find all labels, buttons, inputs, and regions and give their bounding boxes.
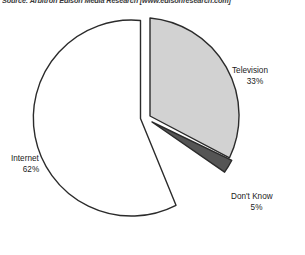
pie-label-internet-value: 62% [11,165,51,176]
pie-chart-svg [0,0,305,255]
pie-label-dontknow: Don't Know 5% [231,192,282,213]
pie-label-internet: Internet 62% [11,154,51,175]
pie-label-television: Television 33% [232,66,278,87]
pie-chart: Television 33% Don't Know 5% Internet 62… [0,0,305,255]
pie-label-dontknow-value: 5% [231,203,282,214]
pie-label-television-value: 33% [232,77,278,88]
pie-label-internet-name: Internet [11,154,39,163]
pie-slice-television [150,18,239,158]
pie-label-dontknow-name: Don't Know [231,192,273,201]
pie-label-television-name: Television [232,66,268,75]
